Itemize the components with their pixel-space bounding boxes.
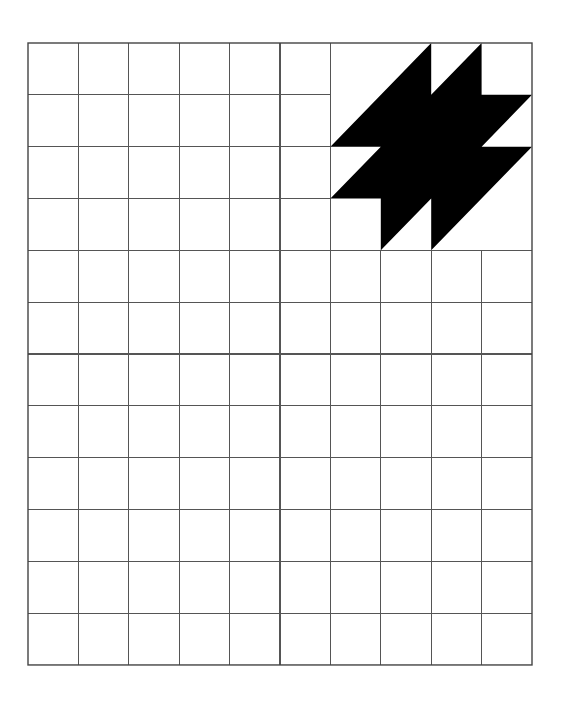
grid-diagram — [0, 0, 562, 703]
black-shape — [330, 43, 532, 250]
